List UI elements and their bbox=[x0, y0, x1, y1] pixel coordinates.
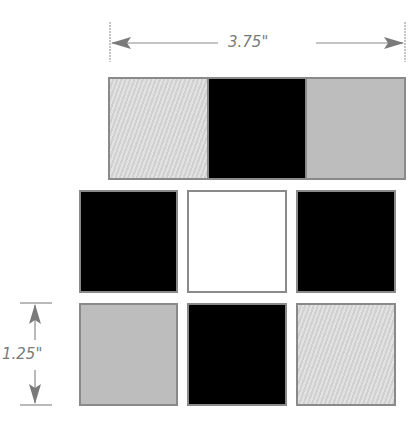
width-dimension-label: 3.75" bbox=[228, 33, 268, 51]
square-black bbox=[207, 77, 307, 180]
square-black bbox=[79, 190, 178, 293]
square-black bbox=[296, 190, 396, 293]
height-dimension-label: 1.25" bbox=[2, 345, 42, 363]
square-black bbox=[187, 303, 287, 406]
square-white bbox=[187, 190, 287, 293]
square-hatch bbox=[108, 77, 209, 180]
square-hatch bbox=[296, 303, 396, 406]
square-gray bbox=[79, 303, 178, 406]
square-gray bbox=[305, 77, 406, 180]
